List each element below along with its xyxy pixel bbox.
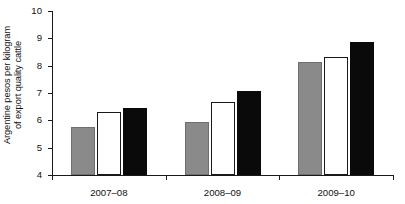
bar [97, 112, 121, 175]
y-axis-tick-label: 4 [22, 169, 42, 180]
y-axis-tick: 8 [48, 66, 52, 67]
bar [298, 62, 322, 175]
y-axis-tick-label: 5 [22, 142, 42, 153]
bar [237, 91, 261, 175]
y-axis-tick: 5 [48, 148, 52, 149]
bar [123, 108, 147, 176]
bar [71, 127, 95, 175]
x-axis-category-label: 2007–08 [52, 187, 166, 199]
bar [185, 122, 209, 175]
bar [324, 57, 348, 175]
x-axis-category-label: 2009–10 [279, 187, 393, 199]
y-axis-tick-label: 8 [22, 60, 42, 71]
y-axis-tick: 10 [48, 11, 52, 12]
y-axis-tick-label: 10 [22, 5, 42, 16]
bar-chart: Argentine pesos per kilogram of export q… [0, 0, 405, 204]
x-axis-category-label: 2008–09 [166, 187, 280, 199]
x-axis-line [48, 175, 393, 176]
y-axis-tick-label: 9 [22, 32, 42, 43]
x-axis-tick [166, 175, 167, 180]
x-axis-tick [279, 175, 280, 180]
y-axis-line [52, 11, 53, 175]
bar [211, 102, 235, 175]
plot-area: 45678910 2007–082008–092009–10 [52, 11, 393, 175]
x-axis-tick [393, 175, 394, 180]
y-axis-tick: 7 [48, 93, 52, 94]
y-axis-tick-label: 6 [22, 114, 42, 125]
x-axis-tick [52, 175, 53, 180]
y-axis-tick: 6 [48, 120, 52, 121]
y-axis-tick-label: 7 [22, 87, 42, 98]
bar [350, 42, 374, 175]
y-axis-label-line-1: Argentine pesos per kilogram [2, 5, 13, 165]
y-axis-tick: 9 [48, 38, 52, 39]
